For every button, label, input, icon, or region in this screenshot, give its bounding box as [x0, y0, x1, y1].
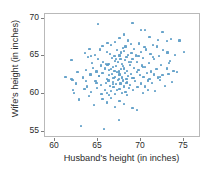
data-point: [71, 79, 73, 81]
data-point: [131, 22, 133, 24]
data-point: [164, 85, 166, 87]
data-point: [166, 40, 168, 42]
data-point: [85, 69, 87, 71]
data-point: [127, 39, 129, 41]
data-point: [137, 55, 139, 57]
data-point: [119, 82, 121, 84]
data-point: [147, 79, 149, 81]
data-point: [85, 80, 87, 82]
data-point: [131, 107, 133, 109]
data-point: [140, 29, 142, 31]
data-point: [124, 72, 126, 74]
data-point: [150, 70, 152, 72]
data-point: [124, 91, 126, 93]
data-point: [107, 63, 109, 65]
data-point: [122, 79, 124, 81]
data-point: [149, 53, 151, 55]
data-point: [117, 61, 119, 63]
data-point: [151, 82, 153, 84]
data-point: [89, 73, 91, 75]
data-point: [166, 51, 168, 53]
data-point: [144, 85, 146, 87]
data-point: [140, 82, 142, 84]
data-point: [125, 78, 127, 80]
y-tick-label: 55: [30, 126, 39, 135]
data-point: [88, 48, 90, 50]
data-point: [110, 44, 112, 46]
data-point: [123, 103, 125, 105]
data-point: [70, 59, 72, 61]
data-point: [130, 73, 132, 75]
data-point: [101, 45, 103, 47]
data-point: [118, 78, 120, 80]
data-point: [130, 61, 132, 63]
data-point: [108, 94, 110, 96]
data-point: [158, 55, 160, 57]
data-point: [154, 90, 156, 92]
data-point: [136, 71, 138, 73]
data-point: [101, 98, 103, 100]
data-point: [148, 36, 150, 38]
data-point: [133, 77, 135, 79]
data-point: [142, 92, 144, 94]
data-point: [114, 41, 116, 43]
data-point: [124, 45, 126, 47]
data-point: [170, 38, 172, 40]
data-point: [113, 55, 115, 57]
data-point: [183, 51, 185, 53]
data-point: [116, 49, 118, 51]
data-point: [171, 81, 173, 83]
data-point: [100, 93, 102, 95]
data-point: [147, 89, 149, 91]
data-point: [159, 79, 161, 81]
data-point: [111, 57, 113, 59]
data-point: [121, 76, 123, 78]
data-point: [136, 109, 138, 111]
data-point: [119, 58, 121, 60]
data-point: [118, 37, 120, 39]
data-point: [123, 67, 125, 69]
data-point: [176, 71, 178, 73]
data-point: [91, 62, 93, 64]
data-point: [100, 84, 102, 86]
data-point: [118, 88, 120, 90]
data-point: [115, 65, 117, 67]
data-point: [107, 79, 109, 81]
data-point: [118, 100, 120, 102]
y-tick-mark: [41, 55, 44, 56]
data-point: [101, 72, 103, 74]
data-point: [96, 87, 98, 89]
data-point: [168, 62, 170, 64]
data-point: [112, 83, 114, 85]
data-point: [90, 91, 92, 93]
data-point: [73, 92, 75, 94]
data-point: [121, 92, 123, 94]
data-point: [83, 88, 85, 90]
data-point: [166, 67, 168, 69]
data-point: [80, 125, 82, 127]
data-point: [100, 64, 102, 66]
data-point: [142, 66, 144, 68]
data-point: [123, 33, 125, 35]
data-point: [86, 85, 88, 87]
data-point: [134, 80, 136, 82]
data-point: [142, 76, 144, 78]
data-point: [155, 68, 157, 70]
data-point: [75, 82, 77, 84]
data-point: [115, 83, 117, 85]
data-point: [105, 63, 107, 65]
data-point: [129, 84, 131, 86]
scatter-plot-figure: 55606570 60657075 Husband's height (in i…: [0, 0, 221, 169]
data-point: [120, 51, 122, 53]
data-point: [105, 82, 107, 84]
data-point: [136, 86, 138, 88]
data-point: [106, 101, 108, 103]
data-point: [140, 51, 142, 53]
data-point: [104, 89, 106, 91]
data-point: [98, 75, 100, 77]
data-point: [110, 68, 112, 70]
data-point: [82, 76, 84, 78]
data-point: [156, 45, 158, 47]
data-point: [144, 29, 146, 31]
x-tick-label: 75: [172, 141, 194, 150]
